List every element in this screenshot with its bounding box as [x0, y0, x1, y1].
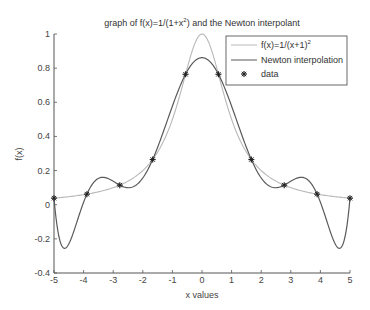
y-tick-label: 1: [45, 29, 50, 39]
legend-star-marker: [241, 71, 247, 77]
newton-interpolant-curve: [54, 58, 350, 249]
data-point-marker: [347, 195, 353, 201]
data-point-marker: [248, 157, 254, 163]
data-point-marker: [314, 191, 320, 197]
data-point-marker: [150, 157, 156, 163]
y-tick-label: 0.2: [37, 166, 50, 176]
x-tick-label: -5: [50, 275, 58, 285]
y-axis-label: f(x): [14, 148, 24, 161]
data-point-marker: [281, 182, 287, 188]
data-markers: [51, 71, 353, 201]
x-tick-label: 2: [259, 275, 264, 285]
data-point-marker: [215, 71, 221, 77]
star-marker-icon: [241, 71, 247, 77]
x-axis-label: x values: [185, 290, 219, 300]
chart-title: graph of f(x)=1/(1+x2) and the Newton in…: [104, 17, 300, 28]
x-tick-label: 0: [199, 275, 204, 285]
y-tick-label: -0.2: [34, 234, 50, 244]
y-tick-label: 0: [45, 200, 50, 210]
data-point-marker: [84, 191, 90, 197]
y-tick-label: 0.4: [37, 131, 50, 141]
x-tick-label: -4: [80, 275, 88, 285]
legend-label-function: f(x)=1/(x+1)2: [261, 39, 312, 50]
data-point-marker: [117, 182, 123, 188]
y-tick-label: -0.4: [34, 268, 50, 278]
x-tick-label: 3: [288, 275, 293, 285]
x-tick-label: -1: [168, 275, 176, 285]
legend: f(x)=1/(x+1)2 Newton interpolation data: [226, 36, 347, 85]
data-point-marker: [183, 71, 189, 77]
data-point-marker: [51, 195, 57, 201]
legend-label-newton: Newton interpolation: [261, 55, 343, 65]
legend-label-data: data: [261, 69, 279, 79]
x-tick-label: 1: [229, 275, 234, 285]
y-tick-label: 0.8: [37, 63, 50, 73]
y-tick-label: 0.6: [37, 97, 50, 107]
chart: graph of f(x)=1/(1+x2) and the Newton in…: [0, 0, 370, 310]
x-tick-label: -2: [139, 275, 147, 285]
x-tick-label: 5: [347, 275, 352, 285]
x-tick-label: 4: [318, 275, 323, 285]
x-tick-label: -3: [109, 275, 117, 285]
